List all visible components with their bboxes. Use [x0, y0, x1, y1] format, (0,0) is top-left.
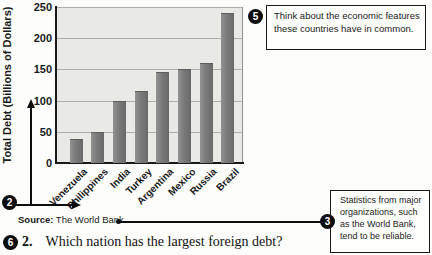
- y-axis-pointer-arrowhead: [27, 99, 35, 108]
- source-label: Source:: [18, 214, 53, 225]
- source-value: The World Bank: [56, 214, 124, 225]
- bar-turkey: [135, 91, 148, 163]
- callout-box-think: Think about the economic features these …: [266, 5, 426, 50]
- y-tick-label-0: 0: [18, 157, 52, 169]
- gridline-250: [57, 7, 242, 8]
- bar-india: [113, 101, 126, 163]
- callout-box-stats: Statistics from major organizations, suc…: [330, 190, 430, 253]
- x-axis-label-brazil: Brazil: [214, 166, 241, 193]
- gridline-150: [57, 69, 242, 70]
- bar-russia: [200, 63, 213, 163]
- question-row: 2.Which nation has the largest foreign d…: [22, 234, 282, 250]
- bar-chart-plot-area: [57, 7, 243, 163]
- callout-badge-3: 3: [320, 214, 335, 229]
- bar-argentina: [156, 72, 169, 163]
- source-line: Source: The World Bank: [18, 214, 124, 225]
- callout-badge-6-number: 6: [8, 237, 14, 248]
- y-tick-label-50: 50: [18, 126, 52, 138]
- gridline-200: [57, 38, 242, 39]
- callout-badge-6: 6: [3, 235, 18, 250]
- y-tick-label-250: 250: [18, 1, 52, 13]
- worksheet-page: Total Debt (Billions of Dollars) 0501001…: [0, 0, 432, 255]
- y-tick-label-200: 200: [18, 32, 52, 44]
- y-axis-line: [55, 6, 57, 164]
- bar-philippines: [91, 132, 104, 163]
- question-text: Which nation has the largest foreign deb…: [46, 234, 283, 249]
- x-axis-pointer-arrowhead: [72, 201, 81, 209]
- callout-badge-5: 5: [248, 9, 263, 24]
- x-axis-line: [55, 162, 244, 164]
- callout-badge-5-number: 5: [253, 11, 259, 22]
- y-tick-label-100: 100: [18, 95, 52, 107]
- bar-venezuela: [70, 139, 83, 163]
- y-axis-pointer-line: [30, 107, 32, 206]
- callout-think-text: Think about the economic features these …: [274, 10, 420, 34]
- x-axis-pointer-line: [12, 204, 74, 206]
- bar-brazil: [221, 13, 234, 163]
- gridline-100: [57, 101, 242, 102]
- question-number: 2.: [22, 234, 33, 249]
- callout-stats-text: Statistics from major organizations, suc…: [340, 195, 422, 241]
- connector-line: [120, 221, 323, 223]
- y-axis-title: Total Debt (Billions of Dollars): [1, 7, 13, 164]
- gridline-50: [57, 132, 242, 133]
- callout-badge-3-number: 3: [325, 216, 331, 227]
- callout-badge-2-number: 2: [7, 197, 13, 208]
- y-axis-title-wrap: Total Debt (Billions of Dollars): [0, 7, 14, 163]
- callout-badge-2: 2: [2, 195, 17, 210]
- y-tick-label-150: 150: [18, 63, 52, 75]
- bar-mexico: [178, 69, 191, 163]
